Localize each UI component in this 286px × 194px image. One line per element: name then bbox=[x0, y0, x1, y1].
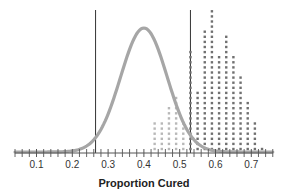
dot bbox=[161, 138, 163, 140]
dot bbox=[254, 133, 256, 135]
dot bbox=[239, 102, 241, 104]
dot bbox=[211, 102, 213, 104]
dot bbox=[225, 36, 227, 38]
dot bbox=[189, 92, 191, 94]
dot bbox=[225, 87, 227, 89]
dot bbox=[196, 97, 198, 99]
dot bbox=[189, 82, 191, 84]
dot bbox=[168, 117, 170, 119]
dot bbox=[204, 71, 206, 73]
dot bbox=[204, 76, 206, 78]
dot bbox=[211, 107, 213, 109]
dot bbox=[204, 92, 206, 94]
dot bbox=[204, 46, 206, 48]
x-axis-title: Proportion Cured bbox=[98, 177, 189, 189]
x-tick-label: 0.2 bbox=[65, 159, 79, 170]
dot bbox=[218, 143, 220, 145]
dot bbox=[168, 138, 170, 140]
dot bbox=[196, 92, 198, 94]
dot bbox=[204, 112, 206, 114]
dot bbox=[175, 122, 177, 124]
dot bbox=[218, 102, 220, 104]
dot bbox=[211, 31, 213, 33]
dot bbox=[204, 56, 206, 58]
dot bbox=[175, 138, 177, 140]
dot bbox=[225, 122, 227, 124]
dot bbox=[232, 148, 234, 150]
dot bbox=[239, 112, 241, 114]
dot bbox=[168, 148, 170, 150]
dot bbox=[189, 87, 191, 89]
dot bbox=[161, 122, 163, 124]
dot bbox=[218, 92, 220, 94]
dot bbox=[211, 56, 213, 58]
dot bbox=[204, 51, 206, 53]
dot bbox=[204, 97, 206, 99]
dot bbox=[232, 66, 234, 68]
dot bbox=[225, 41, 227, 43]
dot bbox=[175, 127, 177, 129]
dot bbox=[239, 133, 241, 135]
dot bbox=[211, 36, 213, 38]
dot bbox=[168, 122, 170, 124]
dot bbox=[232, 102, 234, 104]
x-tick-labels: 0.10.20.30.40.50.60.7 bbox=[30, 159, 259, 170]
dot bbox=[239, 148, 241, 150]
dot bbox=[218, 61, 220, 63]
dot bbox=[232, 138, 234, 140]
dot bbox=[239, 143, 241, 145]
dot bbox=[211, 117, 213, 119]
dot bbox=[218, 56, 220, 58]
dot bbox=[211, 10, 213, 12]
dot bbox=[247, 133, 249, 135]
dot bbox=[211, 25, 213, 27]
dot bbox=[196, 127, 198, 129]
dot bbox=[225, 51, 227, 53]
dot bbox=[196, 148, 198, 150]
dot bbox=[239, 138, 241, 140]
dot bbox=[189, 71, 191, 73]
dot bbox=[225, 97, 227, 99]
dot bbox=[232, 112, 234, 114]
dot bbox=[204, 107, 206, 109]
dot bbox=[247, 127, 249, 129]
x-tick-label: 0.1 bbox=[30, 159, 44, 170]
dot bbox=[189, 61, 191, 63]
dot bbox=[225, 133, 227, 135]
dot bbox=[225, 71, 227, 73]
dot bbox=[254, 138, 256, 140]
dot bbox=[189, 143, 191, 145]
dot bbox=[211, 61, 213, 63]
dot bbox=[247, 148, 249, 150]
dot bbox=[232, 122, 234, 124]
dot bbox=[239, 97, 241, 99]
dot bbox=[204, 117, 206, 119]
dot bbox=[189, 76, 191, 78]
dot bbox=[232, 61, 234, 63]
dot bbox=[247, 117, 249, 119]
dot bbox=[189, 102, 191, 104]
dot bbox=[211, 76, 213, 78]
dot bbox=[211, 41, 213, 43]
x-tick-label: 0.3 bbox=[101, 159, 115, 170]
dot bbox=[161, 133, 163, 135]
dot bbox=[247, 112, 249, 114]
dot bbox=[239, 127, 241, 129]
dot bbox=[218, 66, 220, 68]
dot bbox=[225, 102, 227, 104]
dot bbox=[239, 76, 241, 78]
dot bbox=[232, 76, 234, 78]
dot bbox=[247, 122, 249, 124]
dot bbox=[218, 76, 220, 78]
dot bbox=[182, 143, 184, 145]
dot bbox=[211, 143, 213, 145]
dot bbox=[225, 112, 227, 114]
dot bbox=[225, 82, 227, 84]
dot bbox=[168, 112, 170, 114]
dot bbox=[196, 138, 198, 140]
dot bbox=[225, 143, 227, 145]
dot bbox=[239, 117, 241, 119]
dot bbox=[175, 112, 177, 114]
dot bbox=[218, 87, 220, 89]
dot bbox=[189, 112, 191, 114]
